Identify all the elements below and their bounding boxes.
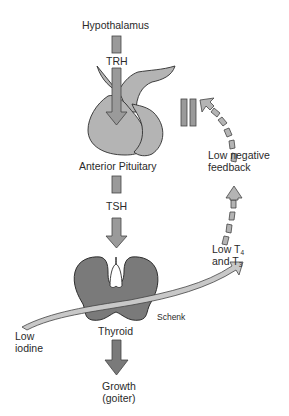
growth-arrow [105, 340, 128, 375]
and-t3-line: and T3 [212, 255, 244, 267]
feedback-arc-lower [222, 186, 242, 245]
tsh-label: TSH [106, 200, 127, 212]
block-bar-right [190, 99, 196, 126]
hypothalamus-connector-bar [112, 36, 121, 53]
growth-line-1: Growth [102, 380, 136, 392]
growth-goiter-label: Growth (goiter) [102, 380, 136, 404]
pituitary-connector-bar [112, 176, 121, 193]
low-iodine-label: Low iodine [15, 330, 43, 354]
diagram-canvas [0, 0, 289, 416]
low-t4-line: Low T4 [212, 243, 244, 255]
hypothalamus-label: Hypothalamus [82, 19, 149, 31]
anterior-pituitary-label: Anterior Pituitary [79, 160, 157, 172]
artist-credit: Schenk [157, 311, 185, 323]
feedback-line-2: feedback [208, 161, 270, 173]
thyroid-notch [110, 264, 122, 288]
low-t4-t3-label: Low T4 and T3 [212, 243, 244, 267]
feedback-line-1: Low negative [208, 149, 270, 161]
tsh-arrow [106, 218, 127, 248]
block-bar-left [181, 99, 187, 126]
thyroid-label: Thyroid [98, 325, 133, 337]
low-iodine-line-2: iodine [15, 342, 43, 354]
growth-line-2: (goiter) [102, 392, 136, 404]
low-negative-feedback-label: Low negative feedback [208, 149, 270, 173]
trh-label: TRH [106, 55, 128, 67]
low-iodine-line-1: Low [15, 330, 43, 342]
